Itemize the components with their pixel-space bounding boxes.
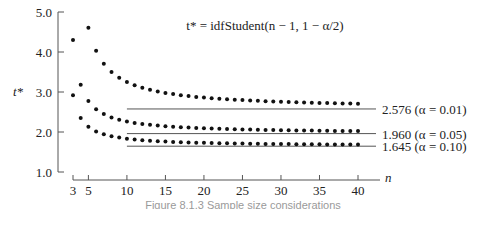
data-point xyxy=(187,140,191,144)
data-point xyxy=(279,100,283,104)
data-point xyxy=(264,99,268,103)
data-point xyxy=(210,141,214,145)
data-point xyxy=(271,99,275,103)
data-point xyxy=(156,139,160,143)
data-point xyxy=(102,132,106,136)
data-point xyxy=(202,126,206,130)
data-point xyxy=(356,102,360,106)
data-point xyxy=(102,62,106,66)
data-point xyxy=(133,83,137,87)
data-point xyxy=(341,129,345,133)
data-point xyxy=(294,142,298,146)
data-point xyxy=(194,126,198,130)
data-point xyxy=(264,128,268,132)
data-point xyxy=(256,99,260,103)
data-point xyxy=(341,101,345,105)
data-point xyxy=(71,93,75,97)
data-point xyxy=(125,80,129,84)
x-tick-label: 25 xyxy=(236,183,249,198)
data-point xyxy=(271,142,275,146)
data-point xyxy=(317,129,321,133)
data-point xyxy=(148,139,152,143)
data-point xyxy=(133,138,137,142)
data-point xyxy=(140,138,144,142)
data-point xyxy=(348,129,352,133)
data-point xyxy=(225,97,229,101)
data-point xyxy=(294,128,298,132)
data-point xyxy=(202,141,206,145)
data-point xyxy=(325,142,329,146)
data-point xyxy=(310,101,314,105)
data-point xyxy=(325,101,329,105)
x-axis-label: n xyxy=(385,170,392,185)
data-point xyxy=(302,142,306,146)
data-point xyxy=(240,127,244,131)
data-point xyxy=(179,140,183,144)
data-point xyxy=(287,142,291,146)
data-point xyxy=(233,127,237,131)
data-point xyxy=(117,136,121,140)
data-point xyxy=(148,123,152,127)
data-point xyxy=(310,142,314,146)
x-tick-label: 35 xyxy=(313,183,326,198)
asymptote-label: 1.645 (α = 0.10) xyxy=(382,139,467,154)
x-tick-label: 20 xyxy=(197,183,210,198)
data-point xyxy=(240,142,244,146)
data-point xyxy=(356,143,360,147)
data-point xyxy=(171,125,175,129)
data-point xyxy=(264,142,268,146)
x-tick-label: 3 xyxy=(70,183,77,198)
data-point xyxy=(71,38,75,42)
data-point xyxy=(210,127,214,131)
data-point xyxy=(86,99,90,103)
data-point xyxy=(302,100,306,104)
data-point xyxy=(333,101,337,105)
data-point xyxy=(256,128,260,132)
data-point xyxy=(117,118,121,122)
data-point xyxy=(279,128,283,132)
data-point xyxy=(163,124,167,128)
data-point xyxy=(341,143,345,147)
data-point xyxy=(117,76,121,80)
x-tick-label: 10 xyxy=(120,183,133,198)
data-point xyxy=(248,142,252,146)
asymptote-label: 2.576 (α = 0.01) xyxy=(382,102,467,117)
data-point xyxy=(171,140,175,144)
data-point xyxy=(217,141,221,145)
data-point xyxy=(110,134,114,138)
data-point xyxy=(102,112,106,116)
data-point xyxy=(156,90,160,94)
data-point xyxy=(210,96,214,100)
data-point xyxy=(225,127,229,131)
data-point xyxy=(133,121,137,125)
data-point xyxy=(202,96,206,100)
data-point xyxy=(156,124,160,128)
data-point xyxy=(217,97,221,101)
y-axis-label: t* xyxy=(13,84,24,99)
figure-caption: Figure 8.1.3 Sample size considerations xyxy=(0,199,486,209)
data-point xyxy=(79,83,83,87)
data-point xyxy=(287,128,291,132)
data-point xyxy=(179,125,183,129)
data-point xyxy=(333,142,337,146)
data-point xyxy=(140,122,144,126)
data-point xyxy=(187,94,191,98)
data-point xyxy=(233,98,237,102)
data-point xyxy=(110,115,114,119)
data-point xyxy=(233,141,237,145)
data-point xyxy=(94,107,98,111)
data-point xyxy=(171,92,175,96)
y-tick-label: 2.0 xyxy=(36,125,52,140)
y-tick-label: 4.0 xyxy=(36,45,52,60)
data-point xyxy=(302,129,306,133)
data-point xyxy=(325,129,329,133)
x-tick-label: 40 xyxy=(352,183,365,198)
data-point xyxy=(348,143,352,147)
data-point xyxy=(194,95,198,99)
data-point xyxy=(356,129,360,133)
data-point xyxy=(125,137,129,141)
data-point xyxy=(140,86,144,90)
x-tick-label: 30 xyxy=(274,183,287,198)
data-point xyxy=(110,70,114,74)
data-point xyxy=(187,126,191,130)
